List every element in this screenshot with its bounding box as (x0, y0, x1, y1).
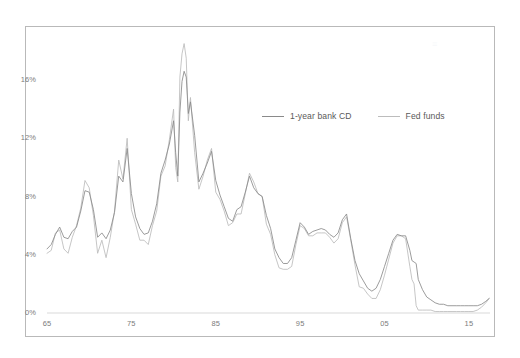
y-axis-tick-4pct: 4% (10, 251, 36, 259)
legend-swatch-fed-funds-icon (378, 116, 400, 117)
legend-label-bank-cd: 1-year bank CD (290, 111, 352, 121)
x-axis-tick-75: 75 (119, 320, 143, 328)
y-axis-tick-8pct: 8% (10, 193, 36, 201)
chart-plot-frame (25, 26, 495, 337)
x-axis-tick-65: 65 (35, 320, 59, 328)
x-axis-tick-95: 95 (288, 320, 312, 328)
chart-figure: 0%4%8%12%16% 657585950515 1-year bank CD… (0, 0, 520, 358)
x-axis-tick-15: 15 (457, 320, 481, 328)
y-axis-tick-16pct: 16% (10, 76, 36, 84)
legend-entry-fed-funds: Fed funds (378, 111, 445, 121)
x-axis-tick-05: 05 (373, 320, 397, 328)
legend-entry-bank-cd: 1-year bank CD (262, 111, 352, 121)
watermark-mark: ≡ (432, 40, 450, 70)
y-axis-tick-12pct: 12% (10, 134, 36, 142)
chart-legend: 1-year bank CD Fed funds (262, 106, 445, 126)
x-axis-tick-85: 85 (204, 320, 228, 328)
legend-swatch-bank-cd-icon (262, 116, 284, 117)
legend-label-fed-funds: Fed funds (406, 111, 445, 121)
y-axis-tick-0pct: 0% (10, 309, 36, 317)
